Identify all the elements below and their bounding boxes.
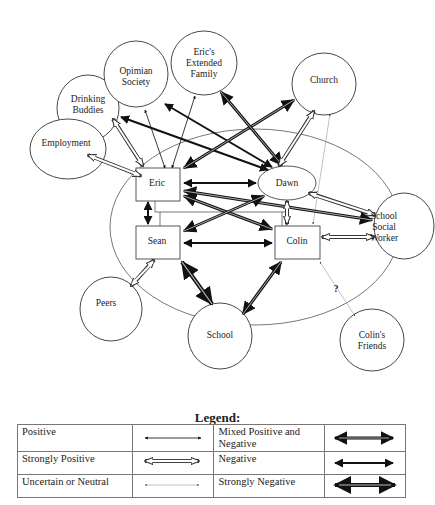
- label-eric: Eric: [149, 178, 165, 188]
- label-church: Church: [310, 75, 338, 85]
- arrow-eric-extended-family: [172, 96, 195, 168]
- arrow-colin-church: [313, 114, 330, 224]
- label-sean: Sean: [148, 236, 167, 246]
- legend-swatch-strongly-positive: [133, 452, 214, 475]
- label-peers: Peers: [96, 298, 117, 308]
- legend-table: Positive Mixed Positive and Negative Str…: [17, 424, 406, 498]
- uncertain-question-mark: ?: [334, 284, 339, 294]
- legend-label-strongly-negative: Strongly Negative: [214, 475, 325, 498]
- label-colin: Colin: [286, 236, 307, 246]
- label-dawn: Dawn: [276, 178, 299, 188]
- legend-swatch-mixed: [324, 425, 405, 452]
- legend-swatch-uncertain: [133, 475, 214, 498]
- label-school-social-worker: SchoolSocialWorker: [370, 211, 399, 243]
- label-opimian-society: OpimianSociety: [119, 66, 152, 87]
- label-school: School: [207, 330, 234, 340]
- legend-label-positive: Positive: [18, 425, 133, 452]
- legend-swatch-positive: [133, 425, 214, 452]
- node-employment: [30, 119, 106, 179]
- legend-row: Positive Mixed Positive and Negative: [18, 425, 406, 452]
- legend-label-strongly-positive: Strongly Positive: [18, 452, 133, 475]
- node-colins-friends: [340, 309, 404, 371]
- label-employment: Employment: [41, 138, 90, 148]
- label-drinking-buddies: DrinkingBuddies: [71, 94, 106, 115]
- legend-row: Strongly Positive Negative: [18, 452, 406, 475]
- legend-label-negative: Negative: [214, 452, 325, 475]
- label-colins-friends: Colin'sFriends: [358, 330, 387, 351]
- legend-swatch-strongly-negative: [324, 475, 405, 498]
- legend-row: Uncertain or Neutral Strongly Negative: [18, 475, 406, 498]
- arrow-eric-opimian: [145, 110, 165, 168]
- legend-label-uncertain: Uncertain or Neutral: [18, 475, 133, 498]
- legend-swatch-negative: [324, 452, 405, 475]
- legend-label-mixed: Mixed Positive and Negative: [214, 425, 325, 452]
- ecomap-diagram: DrinkingBuddies OpimianSociety Eric'sExt…: [0, 0, 435, 400]
